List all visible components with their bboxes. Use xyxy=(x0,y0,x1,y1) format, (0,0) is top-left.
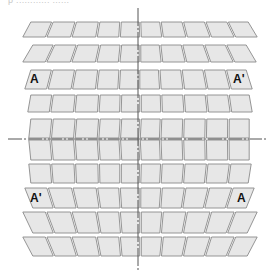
grid-cell xyxy=(119,70,138,89)
grid-cell xyxy=(184,164,207,183)
grid-cell xyxy=(161,164,183,183)
grid-cell xyxy=(141,22,162,37)
grid-cell xyxy=(141,212,161,233)
grid-cell xyxy=(51,119,75,138)
grid-cell xyxy=(161,237,185,256)
grid-cell xyxy=(120,22,139,37)
grid-cell xyxy=(29,164,52,183)
grid-cell xyxy=(184,140,205,160)
grid-cell xyxy=(184,212,210,233)
grid-cell xyxy=(140,119,160,138)
grid-cell xyxy=(206,119,227,138)
distortion-diagram: p ............ ...... AA'A'A xyxy=(0,0,275,277)
grid-cell xyxy=(141,237,161,256)
grid-cell xyxy=(161,119,183,138)
grid-cell xyxy=(29,119,52,138)
grid-cell xyxy=(75,119,98,138)
grid-cell xyxy=(72,212,99,233)
grid-cell xyxy=(23,22,52,37)
grid-cell xyxy=(161,212,185,233)
grid-cell xyxy=(97,212,120,233)
grid-cell xyxy=(161,140,183,160)
grid-cell xyxy=(184,95,207,112)
grid-cell xyxy=(29,140,52,160)
grid-cell xyxy=(99,164,119,183)
grid-cell xyxy=(72,22,98,37)
grid-cell xyxy=(184,22,210,37)
grid-cell xyxy=(140,70,160,89)
distorted-grid xyxy=(0,0,275,277)
marker-label-a-prime: A' xyxy=(30,192,42,204)
grid-cell xyxy=(162,95,184,112)
caption-fragment: p ............ ...... xyxy=(8,0,69,5)
grid-cell xyxy=(121,119,140,138)
grid-cell xyxy=(161,188,185,208)
grid-cell xyxy=(184,119,205,138)
grid-cell xyxy=(72,45,99,62)
marker-label-a-prime: A' xyxy=(233,73,245,85)
grid-cell xyxy=(75,95,99,112)
grid-cell xyxy=(48,70,74,89)
grid-cell xyxy=(206,164,229,183)
grid-cell xyxy=(228,164,251,183)
grid-cell xyxy=(141,164,161,183)
grid-cell xyxy=(120,237,139,256)
grid-cell xyxy=(97,237,120,256)
grid-cell xyxy=(28,95,52,112)
grid-cell xyxy=(141,95,161,112)
grid-cell xyxy=(229,95,252,112)
grid-cell xyxy=(99,95,120,112)
grid-cell xyxy=(120,45,139,62)
grid-cell xyxy=(120,212,139,233)
grid-cell xyxy=(99,119,120,138)
grid-cell xyxy=(52,164,75,183)
marker-label-a: A xyxy=(237,192,246,204)
grid-cell xyxy=(97,22,119,37)
grid-cell xyxy=(98,188,120,208)
grid-cell xyxy=(97,70,119,89)
grid-cell xyxy=(76,164,99,183)
grid-cell xyxy=(141,188,161,208)
grid-cell xyxy=(72,237,99,256)
grid-cell xyxy=(161,22,186,37)
grid-cell xyxy=(204,70,229,89)
grid-cell xyxy=(73,70,98,89)
grid-cell xyxy=(183,188,208,208)
grid-cell xyxy=(51,140,75,160)
grid-cell xyxy=(97,45,120,62)
grid-cell xyxy=(229,119,249,138)
grid-cell xyxy=(207,95,230,112)
grid-cell xyxy=(120,188,139,208)
grid-cell xyxy=(229,140,249,160)
grid-cell xyxy=(206,140,227,160)
grid-cell xyxy=(121,164,139,183)
grid-cell xyxy=(160,70,183,89)
marker-label-a: A xyxy=(30,73,39,85)
grid-cell xyxy=(121,140,140,160)
grid-cell xyxy=(73,188,99,208)
grid-cell xyxy=(184,237,210,256)
grid-cell xyxy=(75,140,98,160)
grid-cell xyxy=(141,45,161,62)
grid-cell xyxy=(121,95,139,112)
grid-cell xyxy=(99,140,120,160)
grid-cell xyxy=(51,95,75,112)
grid-cell xyxy=(182,70,206,89)
grid-cell xyxy=(140,140,160,160)
grid-cell xyxy=(161,45,185,62)
